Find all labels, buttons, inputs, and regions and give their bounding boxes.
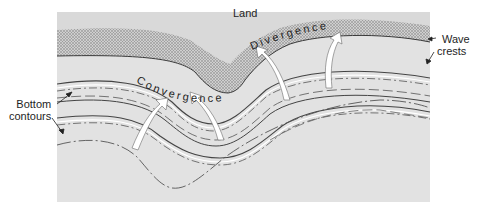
land-label: Land [233,7,257,19]
bottom-contours-line2: contours [9,110,51,122]
bottom-contours-line1: Bottom [9,98,51,110]
wave-crests-line2: crests [437,45,470,57]
wave-crests-line1: Wave [437,33,470,45]
wave-crests-label: Wave crests [437,33,470,57]
wave-refraction-diagram: Convergence Divergence [0,0,479,212]
bottom-contours-label: Bottom contours [9,98,51,122]
